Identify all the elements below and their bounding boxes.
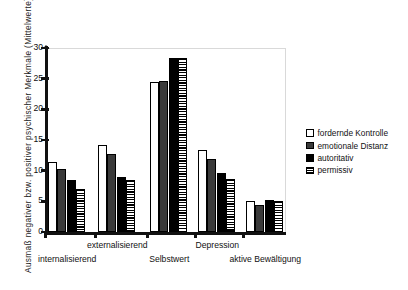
bar	[255, 205, 264, 232]
x-axis-tick	[194, 232, 197, 238]
legend-item[interactable]: permissiv	[306, 164, 406, 176]
y-axis-tick-label: 25	[17, 73, 43, 83]
bar	[274, 201, 283, 232]
legend-item[interactable]: emotionale Distanz	[306, 139, 406, 151]
x-axis-tick	[242, 232, 245, 238]
bar	[150, 82, 159, 232]
legend-label: autoritativ	[318, 153, 354, 163]
legend-item[interactable]: autoritativ	[306, 152, 406, 164]
bar-group	[98, 48, 137, 232]
y-axis-tick-label: 30	[17, 42, 43, 52]
bar	[265, 200, 274, 232]
x-axis-tick	[94, 232, 97, 238]
bar	[98, 145, 107, 232]
legend-swatch-icon	[306, 129, 314, 137]
bar	[126, 180, 135, 232]
legend: fordernde Kontrolleemotionale Distanzaut…	[306, 127, 406, 177]
bar	[76, 189, 85, 232]
bar	[107, 154, 116, 232]
bar-group	[150, 48, 189, 232]
bar	[159, 81, 168, 232]
bar	[178, 58, 187, 232]
x-axis-label: Depression	[196, 240, 239, 250]
legend-label: permissiv	[318, 165, 353, 175]
bar	[57, 169, 66, 232]
legend-swatch-icon	[306, 154, 314, 162]
y-axis-tick-label: 15	[17, 134, 43, 144]
bar	[207, 159, 216, 232]
bar-group	[246, 48, 285, 232]
legend-swatch-icon	[306, 167, 314, 175]
bar	[117, 177, 126, 232]
bar	[246, 201, 255, 232]
legend-label: emotionale Distanz	[318, 141, 389, 151]
legend-label: fordernde Kontrolle	[318, 128, 389, 138]
y-axis-tick-label: 10	[17, 165, 43, 175]
bar-group	[48, 48, 87, 232]
bar	[67, 180, 76, 232]
legend-item[interactable]: fordernde Kontrolle	[306, 127, 406, 139]
bar	[217, 173, 226, 232]
bar	[198, 150, 207, 232]
bar	[226, 179, 235, 232]
x-axis-label: aktive Bewältigung	[229, 254, 301, 264]
x-axis-label: internalisierend	[38, 254, 96, 264]
y-axis-tick-label: 20	[17, 103, 43, 113]
x-axis-tick	[44, 232, 47, 238]
bar	[169, 58, 178, 232]
bars-area	[46, 48, 286, 232]
x-axis-line	[45, 232, 286, 235]
legend-swatch-icon	[306, 142, 314, 150]
y-axis-tick-label: 5	[17, 195, 43, 205]
bar	[48, 162, 57, 232]
x-axis-label: Selbstwert	[149, 254, 189, 264]
chart-figure: Ausmaß negativer bzw. positiver psychisc…	[0, 0, 408, 290]
bar-group	[198, 48, 237, 232]
x-axis-label: externalisierend	[87, 240, 148, 250]
y-axis-tick-label: 0	[17, 226, 43, 236]
x-axis-tick	[146, 232, 149, 238]
